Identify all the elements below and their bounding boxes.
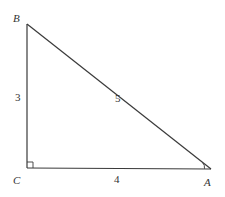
side-label-bc: 3 (15, 91, 21, 103)
right-triangle-diagram: B C A 3 5 4 (0, 0, 225, 197)
vertex-label-c: C (13, 174, 21, 186)
side-ca (27, 168, 211, 169)
vertex-label-a: A (203, 176, 211, 188)
side-label-ab: 5 (115, 92, 121, 104)
vertex-label-b: B (13, 12, 20, 24)
right-angle-marker (27, 162, 33, 168)
side-label-ca: 4 (114, 173, 120, 185)
